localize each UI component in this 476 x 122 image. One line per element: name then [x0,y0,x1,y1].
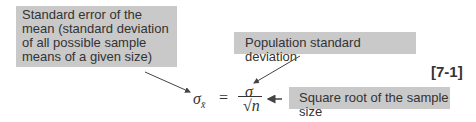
equation-number: [7-1] [431,63,463,80]
denominator-sqrt-n: √n [243,97,260,115]
arrow-standard-error [145,72,190,92]
equals-sign: = [219,89,228,107]
sigma-xbar: σx̄ [193,90,205,110]
arrow-population-sd [254,56,300,83]
arrows [0,0,476,122]
